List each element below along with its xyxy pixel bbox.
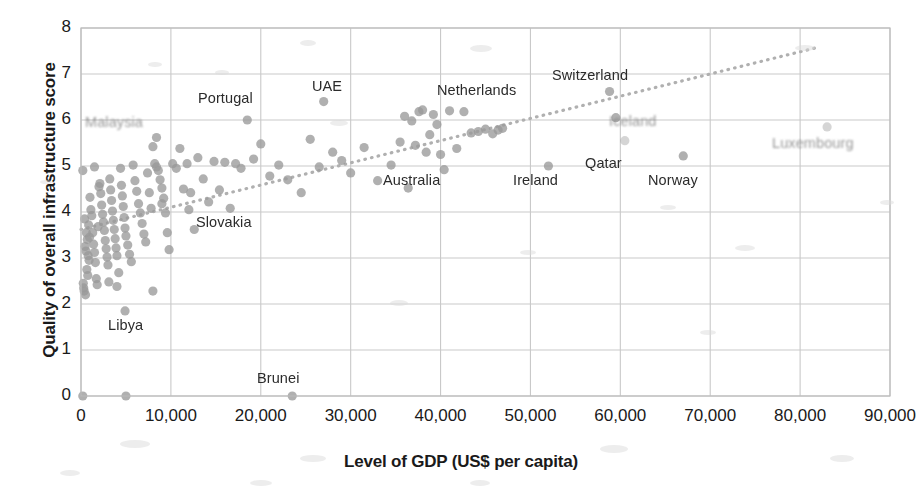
data-point [161, 208, 170, 217]
data-point [425, 130, 434, 139]
data-points [78, 87, 831, 401]
plot-area [0, 0, 922, 496]
data-point [129, 160, 138, 169]
data-point [164, 245, 173, 254]
scan-speck [40, 180, 52, 184]
data-point [141, 237, 150, 246]
data-point [103, 260, 112, 269]
data-point [387, 160, 396, 169]
data-point [418, 105, 427, 114]
data-point [544, 161, 553, 170]
data-point [346, 168, 355, 177]
data-point [143, 168, 152, 177]
data-point [445, 106, 454, 115]
data-point [109, 216, 118, 225]
scan-speck [120, 440, 150, 448]
data-point [157, 183, 166, 192]
data-point [95, 179, 104, 188]
data-point [104, 277, 113, 286]
data-point [111, 234, 120, 243]
scan-speck [215, 70, 229, 75]
data-point [429, 110, 438, 119]
data-point [422, 148, 431, 157]
scan-speck [520, 250, 536, 255]
data-point [93, 280, 102, 289]
data-point [360, 143, 369, 152]
data-point [119, 202, 128, 211]
scan-speck [830, 455, 854, 462]
point-label: UAE [312, 78, 342, 94]
data-point [102, 252, 111, 261]
data-point [256, 139, 265, 148]
data-point [91, 258, 100, 267]
data-point [101, 236, 110, 245]
data-point [138, 219, 147, 228]
data-point [319, 97, 328, 106]
data-point [81, 247, 90, 256]
data-point [156, 175, 165, 184]
data-point [297, 188, 306, 197]
data-point [97, 201, 106, 210]
data-point [411, 141, 420, 150]
data-point [432, 120, 441, 129]
data-point [148, 142, 157, 151]
data-point [81, 290, 90, 299]
data-point [175, 144, 184, 153]
data-point [620, 136, 629, 145]
point-label: Portugal [198, 90, 253, 106]
data-point [89, 240, 98, 249]
trendline [81, 47, 818, 229]
data-point [127, 257, 136, 266]
data-point [265, 172, 274, 181]
data-point [134, 199, 143, 208]
data-point [117, 181, 126, 190]
data-point [118, 191, 127, 200]
data-point [123, 241, 132, 250]
scan-speck [60, 470, 80, 476]
data-point [226, 204, 235, 213]
point-label: Netherlands [437, 82, 516, 98]
data-point [436, 150, 445, 159]
data-point [99, 218, 108, 227]
data-point [186, 188, 195, 197]
data-point [679, 151, 688, 160]
data-point [79, 279, 88, 288]
data-point [78, 166, 87, 175]
scan-speck [148, 62, 162, 67]
data-point [315, 162, 324, 171]
point-label: Switzerland [552, 67, 628, 83]
data-point [139, 229, 148, 238]
data-point [96, 189, 105, 198]
data-point [822, 122, 831, 131]
scan-speck [330, 120, 348, 126]
data-point [114, 268, 123, 277]
data-point [147, 204, 156, 213]
data-point [112, 282, 121, 291]
scan-speck [390, 300, 408, 306]
data-point [102, 244, 111, 253]
data-point [236, 164, 245, 173]
data-point [328, 148, 337, 157]
data-point [130, 176, 139, 185]
data-point [152, 133, 161, 142]
scan-speck [660, 205, 676, 210]
scatter-chart: Quality of overall infrastructure score … [0, 0, 922, 496]
scan-speck [250, 480, 272, 486]
data-point [163, 228, 172, 237]
data-point [407, 116, 416, 125]
scan-speck [300, 40, 316, 46]
data-point [243, 115, 252, 124]
data-point [157, 199, 166, 208]
data-point [459, 107, 468, 116]
data-point [283, 175, 292, 184]
scan-speck [470, 45, 492, 52]
data-point [396, 137, 405, 146]
data-point [106, 185, 115, 194]
data-point [121, 231, 130, 240]
data-point [274, 160, 283, 169]
point-label: Iceland [609, 113, 656, 129]
data-point [199, 174, 208, 183]
data-point [605, 87, 614, 96]
point-label: Norway [648, 172, 698, 188]
data-point [83, 271, 92, 280]
